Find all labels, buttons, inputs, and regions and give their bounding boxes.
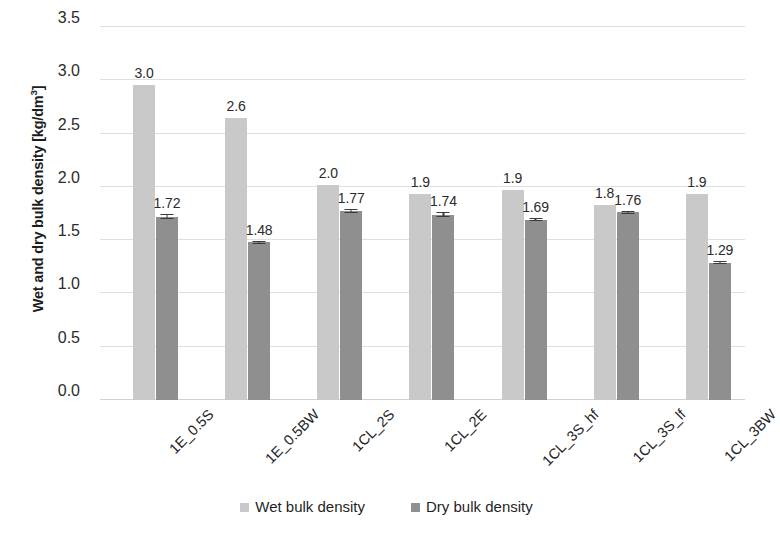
bar-wet[interactable] — [594, 205, 616, 400]
error-bar — [345, 209, 358, 213]
error-bar — [253, 241, 266, 244]
bar-dry[interactable] — [340, 211, 362, 400]
bar-data-label: 1.9 — [687, 174, 706, 190]
y-axis-tick-label: 1.5 — [34, 222, 80, 240]
bar-data-label: 3.0 — [134, 65, 153, 81]
y-axis-tick-label: 3.5 — [34, 9, 80, 27]
bar-data-label: 2.0 — [319, 165, 338, 181]
bar-dry[interactable] — [617, 212, 639, 400]
y-axis-tick-label: 2.0 — [34, 169, 80, 187]
error-bar — [437, 212, 450, 217]
x-axis-tick-label: 1E_0.5BW — [262, 406, 322, 466]
y-axis-tick-label: 0.0 — [34, 382, 80, 400]
legend-item[interactable]: Dry bulk density — [411, 498, 533, 515]
bar-group: 1.91.74 — [398, 27, 465, 400]
x-axis-tick-label: 1CL_3S_hf — [539, 406, 602, 469]
x-axis-tick-label: 1CL_2E — [441, 406, 489, 454]
y-axis-tick-label: 0.5 — [34, 329, 80, 347]
y-axis-tick-label: 2.5 — [34, 116, 80, 134]
bar-group: 1.91.29 — [675, 27, 742, 400]
bar-wet[interactable] — [133, 85, 155, 400]
bar-wet[interactable] — [686, 194, 708, 400]
legend-label: Wet bulk density — [255, 498, 365, 515]
bar-group: 1.91.69 — [491, 27, 558, 400]
error-bar — [529, 218, 542, 221]
bar-data-label: 1.8 — [595, 185, 614, 201]
y-axis-tick-label: 1.0 — [34, 275, 80, 293]
bar-wet[interactable] — [317, 185, 339, 400]
y-axis-tick-labels: 0.00.51.01.52.02.53.03.5 — [34, 27, 88, 400]
bar-data-label: 1.9 — [411, 174, 430, 190]
bar-group: 2.01.77 — [306, 27, 373, 400]
x-axis-tick-label: 1E_0.5S — [166, 406, 217, 457]
chart-legend: Wet bulk densityDry bulk density — [0, 498, 773, 515]
error-bar — [621, 211, 634, 214]
bar-group: 1.81.76 — [583, 27, 650, 400]
bar-data-label: 1.48 — [246, 222, 273, 238]
bar-data-label: 1.69 — [522, 199, 549, 215]
legend-label: Dry bulk density — [426, 498, 533, 515]
x-axis-tick-label: 1CL_2S — [349, 406, 397, 454]
bar-dry[interactable] — [525, 220, 547, 400]
bar-group: 3.01.72 — [122, 27, 189, 400]
legend-item[interactable]: Wet bulk density — [240, 498, 365, 515]
bar-data-label: 1.29 — [706, 242, 733, 258]
bar-dry[interactable] — [432, 215, 454, 400]
bar-wet[interactable] — [502, 190, 524, 400]
x-axis-tick-label: 1CL_3S_lf — [630, 406, 689, 465]
bar-group: 2.61.48 — [214, 27, 281, 400]
bar-dry[interactable] — [248, 242, 270, 400]
legend-swatch-icon — [240, 503, 249, 512]
plot-area: 3.01.722.61.482.01.771.91.741.91.691.81.… — [100, 27, 745, 400]
y-axis-tick-label: 3.0 — [34, 62, 80, 80]
bar-data-label: 1.76 — [614, 192, 641, 208]
x-axis-tick-label: 1CL_3BW — [721, 406, 779, 464]
bar-data-label: 2.6 — [227, 98, 246, 114]
bar-wet[interactable] — [409, 194, 431, 400]
bar-dry[interactable] — [156, 217, 178, 400]
legend-swatch-icon — [411, 503, 420, 512]
bar-data-label: 1.9 — [503, 170, 522, 186]
bar-dry[interactable] — [709, 263, 731, 400]
bar-data-label: 1.74 — [430, 193, 457, 209]
error-bar — [713, 261, 726, 264]
bar-wet[interactable] — [225, 118, 247, 400]
error-bar — [161, 214, 174, 219]
x-axis-tick-labels: 1E_0.5S1E_0.5BW1CL_2S1CL_2E1CL_3S_hf1CL_… — [100, 402, 745, 492]
bar-data-label: 1.72 — [154, 195, 181, 211]
bar-data-label: 1.77 — [338, 190, 365, 206]
